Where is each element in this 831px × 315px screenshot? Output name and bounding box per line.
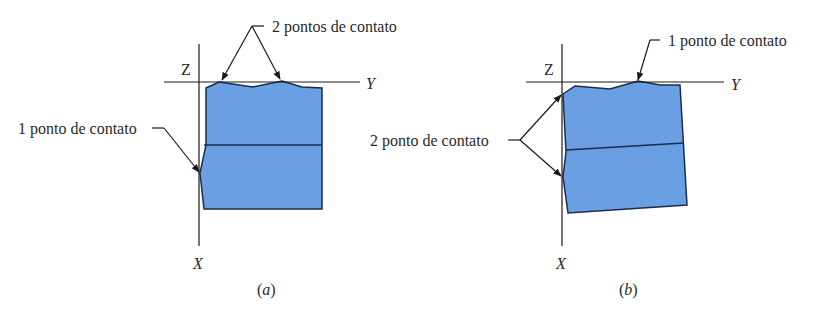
callout-label-a-left: 1 ponto de contato: [18, 120, 137, 138]
callout-arrow-b-left-1: [520, 95, 561, 140]
x-axis-label-b: X: [555, 255, 567, 272]
panel-b: Z Y X 1 ponto de contato 2 ponto de cont…: [370, 32, 787, 299]
y-axis-label-a: Y: [366, 75, 377, 92]
z-axis-label-a: Z: [181, 61, 191, 78]
callout-arrow-b-top: [638, 40, 650, 80]
caption-b: (b): [619, 281, 638, 299]
z-axis-label-b: Z: [544, 61, 554, 78]
figure-canvas: Z Y X 2 pontos de contato 1 ponto de con…: [0, 0, 831, 315]
callout-label-b-top: 1 ponto de contato: [668, 32, 787, 50]
y-axis-label-b: Y: [731, 76, 742, 93]
caption-a: (a): [257, 281, 276, 299]
callout-label-a-top: 2 pontos de contato: [272, 18, 397, 36]
callout-arrow-a-left: [164, 128, 199, 172]
panel-a: Z Y X 2 pontos de contato 1 ponto de con…: [18, 18, 397, 299]
callout-arrow-a-top-1: [222, 26, 252, 80]
callout-arrow-b-left-2: [520, 140, 561, 176]
callout-label-b-left: 2 ponto de contato: [370, 132, 489, 150]
x-axis-label-a: X: [192, 255, 204, 272]
